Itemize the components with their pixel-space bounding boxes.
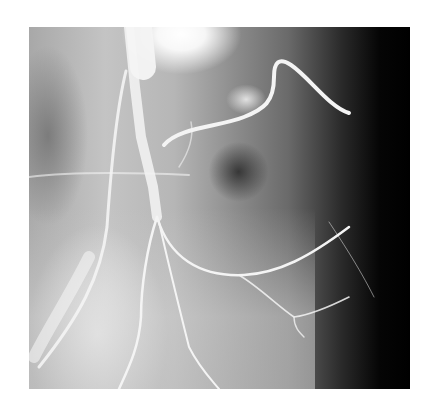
angiogram-image [29,27,410,389]
vessel-overlay [29,27,410,389]
